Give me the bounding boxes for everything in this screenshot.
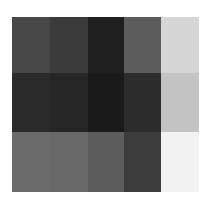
- grayscale-grid: [12, 17, 199, 192]
- grid-cell: [124, 73, 161, 132]
- grid-cell: [12, 17, 50, 73]
- grid-cell: [124, 17, 161, 73]
- grid-cell: [88, 73, 124, 132]
- grid-cell: [50, 17, 88, 73]
- grid-cell: [88, 132, 124, 192]
- grid-cell: [161, 17, 199, 73]
- grid-cell: [12, 73, 50, 132]
- grid-cell: [12, 132, 50, 192]
- grid-cell: [161, 132, 199, 192]
- grid-cell: [124, 132, 161, 192]
- grid-cell: [50, 73, 88, 132]
- grid-cell: [88, 17, 124, 73]
- grid-cell: [161, 73, 199, 132]
- grid-cell: [50, 132, 88, 192]
